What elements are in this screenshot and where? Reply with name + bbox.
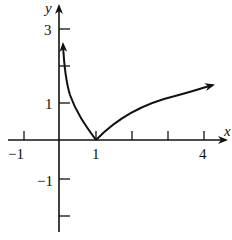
curve-right-branch [96,85,213,140]
x-ticks [24,131,204,140]
x-tick-label-1: 1 [92,146,100,162]
graph: y x 3 1 −1 −1 1 4 [0,0,232,240]
y-axis-label: y [43,0,52,16]
curve-left-branch [63,44,96,140]
x-axis-label: x [223,123,231,139]
y-tick-label-3: 3 [44,22,52,38]
y-tick-label-1: 1 [45,96,53,112]
y-tick-label-neg1: −1 [37,173,53,189]
x-tick-label-neg1: −1 [8,146,24,162]
x-tick-label-4: 4 [199,146,207,162]
